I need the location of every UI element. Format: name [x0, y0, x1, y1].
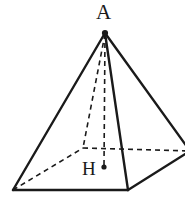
apex-to-front-right-edge	[105, 33, 128, 190]
base-back-right-hidden-edge	[83, 148, 185, 151]
pyramid-drawing	[0, 0, 185, 213]
apex-to-back-right-edge	[105, 33, 185, 151]
altitude-apex-to-center	[104, 34, 105, 166]
apex-label: A	[96, 2, 111, 23]
base-back-left-hidden-edge	[13, 148, 83, 190]
height-foot-label: H	[82, 159, 96, 178]
base-right-edge	[128, 151, 185, 190]
apex-dot	[102, 30, 108, 36]
center-dot	[101, 164, 106, 169]
pyramid-figure: A H	[0, 0, 185, 213]
